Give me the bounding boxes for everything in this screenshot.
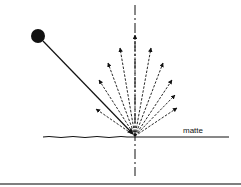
incident-ray-arrow [43,41,133,134]
reflected-ray-arrow [135,95,175,136]
reflected-rays [96,35,177,136]
reflected-ray-arrow [135,108,177,136]
surface-label: matte [183,126,204,135]
reflected-ray-arrow [96,109,135,136]
reflected-ray-arrow [135,48,151,136]
diffuse-reflection-diagram: matte [0,0,241,187]
matte-surface-line [43,137,229,138]
reflected-ray-arrow [108,63,135,136]
reflected-ray-arrow [135,63,163,136]
reflected-ray-arrow [99,80,135,136]
light-source-ball-icon [31,29,45,43]
reflected-ray-arrow [135,80,172,136]
